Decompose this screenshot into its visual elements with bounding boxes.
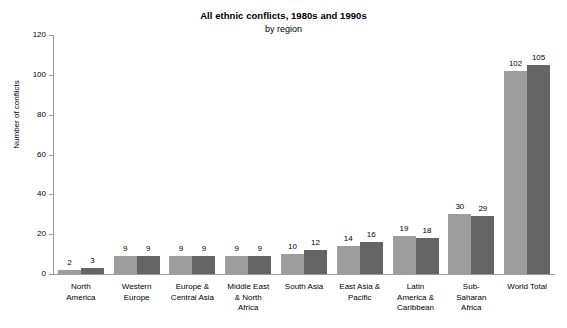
bar-value-label: 9 <box>136 245 160 253</box>
bar-chart-figure: All ethnic conflicts, 1980s and 1990s by… <box>0 0 567 328</box>
bar-value-label: 3 <box>80 257 104 265</box>
y-axis-tick-label: 120 <box>6 31 46 39</box>
bar-value-label: 18 <box>415 227 439 235</box>
bar-group <box>220 35 276 274</box>
category-label: South Asia <box>273 282 335 293</box>
category-label: LatinAmerica &Caribbean <box>385 282 447 314</box>
bar-1990s[interactable] <box>192 256 215 274</box>
bar-1990s[interactable] <box>360 242 383 274</box>
bar-1990s[interactable] <box>416 238 439 274</box>
bar-1990s[interactable] <box>471 216 494 274</box>
bar-1980s[interactable] <box>169 256 192 274</box>
x-axis-baseline <box>53 274 555 275</box>
bar-value-label: 29 <box>471 205 495 213</box>
bar-1980s[interactable] <box>337 246 360 274</box>
bar-pair <box>53 35 109 274</box>
category-label: World Total <box>496 282 558 293</box>
bar-1980s[interactable] <box>58 270 81 274</box>
y-axis-tick-label: 40 <box>6 190 46 198</box>
bar-value-label: 19 <box>392 225 416 233</box>
bar-1980s[interactable] <box>114 256 137 274</box>
y-axis-tick <box>49 274 53 275</box>
bar-value-label: 9 <box>192 245 216 253</box>
category-label: Sub-SaharanAfrica <box>440 282 502 314</box>
bar-pair <box>165 35 221 274</box>
bar-value-label: 105 <box>527 54 551 62</box>
bar-value-label: 9 <box>225 245 249 253</box>
bar-value-label: 16 <box>359 231 383 239</box>
y-axis-tick-label: 100 <box>6 71 46 79</box>
bar-pair <box>109 35 165 274</box>
chart-subtitle: by region <box>0 23 567 35</box>
bar-value-label: 9 <box>248 245 272 253</box>
y-axis-tick-label: 80 <box>6 111 46 119</box>
bar-pair <box>220 35 276 274</box>
y-axis-tick-label: 60 <box>6 151 46 159</box>
y-axis-tick-label: 0 <box>6 270 46 278</box>
bar-value-label: 10 <box>281 243 305 251</box>
bar-value-label: 14 <box>336 235 360 243</box>
bar-pair <box>443 35 499 274</box>
bar-1980s[interactable] <box>281 254 304 274</box>
bar-value-label: 9 <box>113 245 137 253</box>
bar-group <box>109 35 165 274</box>
bar-1980s[interactable] <box>448 214 471 274</box>
bar-1990s[interactable] <box>81 268 104 274</box>
bar-value-label: 30 <box>448 203 472 211</box>
bar-group <box>165 35 221 274</box>
category-label: Middle East& NorthAfrica <box>217 282 279 314</box>
bar-group <box>388 35 444 274</box>
bar-value-label: 9 <box>169 245 193 253</box>
category-label: Europe &Central Asia <box>162 282 224 303</box>
category-label: East Asia &Pacific <box>329 282 391 303</box>
bar-value-label: 12 <box>304 239 328 247</box>
bar-1990s[interactable] <box>304 250 327 274</box>
bar-pair <box>499 35 555 274</box>
category-label: NorthAmerica <box>50 282 112 303</box>
bar-group <box>499 35 555 274</box>
chart-title: All ethnic conflicts, 1980s and 1990s <box>0 10 567 22</box>
bar-1980s[interactable] <box>504 71 527 274</box>
bar-group <box>53 35 109 274</box>
bar-value-label: 102 <box>504 60 528 68</box>
category-label: WesternEurope <box>106 282 168 303</box>
bar-1980s[interactable] <box>225 256 248 274</box>
y-axis-tick-label: 20 <box>6 230 46 238</box>
bar-1990s[interactable] <box>527 65 550 274</box>
bar-1980s[interactable] <box>393 236 416 274</box>
bar-group <box>443 35 499 274</box>
bar-pair <box>388 35 444 274</box>
bar-value-label: 2 <box>57 259 81 267</box>
bar-1990s[interactable] <box>137 256 160 274</box>
bar-1990s[interactable] <box>248 256 271 274</box>
